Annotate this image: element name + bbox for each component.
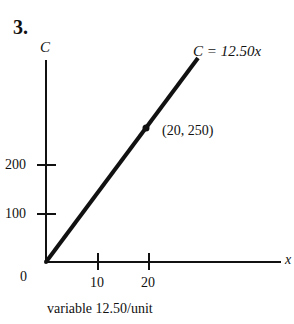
x-tick-label-20: 20 xyxy=(141,276,155,290)
caption: variable 12.50/unit xyxy=(47,302,153,316)
point-label: (20, 250) xyxy=(162,124,213,138)
y-tick-label-200: 200 xyxy=(5,158,26,172)
y-tick-label-100: 100 xyxy=(5,207,26,221)
point-marker xyxy=(143,125,150,132)
x-axis-label: x xyxy=(285,253,291,267)
cost-line xyxy=(46,58,198,262)
origin-label: 0 xyxy=(20,270,27,284)
y-axis-label: C xyxy=(40,40,50,55)
origin-dot xyxy=(44,260,48,264)
line-equation-label: C = 12.50x xyxy=(193,44,261,59)
x-tick-label-10: 10 xyxy=(90,276,104,290)
